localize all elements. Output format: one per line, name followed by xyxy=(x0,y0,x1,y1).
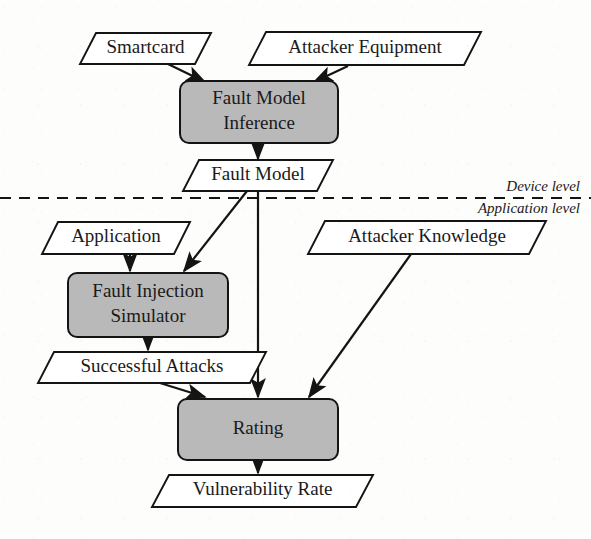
node-label-fault_injection_simulator-line-1: Fault Injection xyxy=(92,280,204,301)
node-label-rating: Rating xyxy=(233,417,284,438)
connector-successful-attacks-to-rating xyxy=(160,383,205,397)
node-label-attacker_knowledge: Attacker Knowledge xyxy=(348,225,506,246)
node-fault_model[interactable]: Fault Model xyxy=(183,160,333,191)
device-level-label: Device level xyxy=(505,178,580,194)
node-label-fault_model_inference-line-2: Inference xyxy=(223,112,295,133)
flowchart-canvas: Device levelApplication level SmartcardA… xyxy=(0,0,591,539)
node-label-application: Application xyxy=(71,225,161,246)
node-fault_model_inference[interactable]: Fault ModelInference xyxy=(180,81,338,143)
node-label-smartcard: Smartcard xyxy=(106,36,185,57)
node-label-vulnerability_rate: Vulnerability Rate xyxy=(193,478,333,499)
node-label-attacker_equipment: Attacker Equipment xyxy=(288,36,442,57)
flowchart-svg: Device levelApplication level SmartcardA… xyxy=(0,0,591,539)
connector-equipment-to-inference xyxy=(314,66,348,82)
node-label-fault_injection_simulator-line-2: Simulator xyxy=(111,305,187,326)
connector-smartcard-to-inference xyxy=(168,64,205,82)
node-fault_injection_simulator[interactable]: Fault InjectionSimulator xyxy=(68,273,228,337)
connector-fault-model-to-simulator xyxy=(184,191,247,271)
node-application[interactable]: Application xyxy=(42,222,190,254)
node-successful_attacks[interactable]: Successful Attacks xyxy=(38,352,266,383)
node-rating[interactable]: Rating xyxy=(178,399,338,460)
application-level-label: Application level xyxy=(477,200,580,216)
node-attacker_equipment[interactable]: Attacker Equipment xyxy=(249,32,481,65)
node-attacker_knowledge[interactable]: Attacker Knowledge xyxy=(308,221,546,254)
node-vulnerability_rate[interactable]: Vulnerability Rate xyxy=(152,475,373,507)
node-smartcard[interactable]: Smartcard xyxy=(80,33,211,64)
node-label-fault_model: Fault Model xyxy=(211,163,304,184)
node-label-fault_model_inference-line-1: Fault Model xyxy=(212,87,305,108)
node-label-successful_attacks: Successful Attacks xyxy=(80,355,223,376)
connector-knowledge-to-rating xyxy=(309,254,411,397)
nodes-layer: SmartcardAttacker EquipmentFault ModelIn… xyxy=(38,32,546,507)
